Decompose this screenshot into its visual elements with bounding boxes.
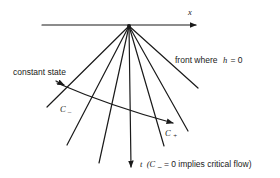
x-axis-label: x <box>187 7 192 17</box>
fan-line <box>129 26 188 131</box>
c-plus-letter: C <box>165 128 171 138</box>
front-label: front where h = 0 <box>175 55 243 65</box>
c-minus-letter: C <box>60 104 66 114</box>
c-minus-subscript: – <box>67 108 72 116</box>
c-plus-label: C + <box>165 128 178 140</box>
constant-state-label: constant state <box>13 67 66 77</box>
t-axis <box>129 26 131 167</box>
front-label-var: h <box>223 55 227 65</box>
t-axis-var: t <box>140 159 143 169</box>
c-plus-subscript: + <box>173 132 178 140</box>
characteristic-fan-diagram: x constant state front where h = 0 C – C… <box>0 0 280 178</box>
characteristic-fan <box>47 26 198 163</box>
t-note-rest: = 0 implies critical flow) <box>164 159 252 169</box>
front-label-text: front where <box>175 55 218 65</box>
front-label-eq: = 0 <box>231 55 243 65</box>
apex-point <box>127 24 131 28</box>
fan-line <box>67 26 129 145</box>
fan-line <box>129 26 164 146</box>
c-minus-label: C – <box>60 104 72 116</box>
fan-line <box>99 26 129 163</box>
t-axis-label: t (C – = 0 implies critical flow) <box>140 159 252 171</box>
t-note-open: (C <box>147 159 156 169</box>
t-note-subscript: – <box>158 163 162 170</box>
